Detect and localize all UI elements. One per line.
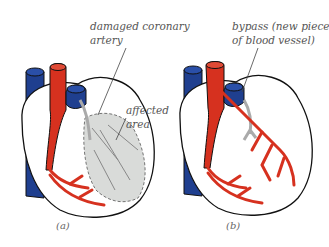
heart-diagram: damaged coronary artery affected area (a…: [0, 0, 329, 247]
label-affected-2: area: [126, 118, 150, 130]
caption-b: (b): [226, 220, 240, 231]
label-affected-1: affected: [126, 104, 169, 116]
caption-a: (a): [56, 220, 70, 231]
label-bypass-2: of blood vessel): [232, 34, 315, 46]
label-damaged-coronary-artery-2: artery: [90, 34, 124, 46]
heart-b: [180, 62, 312, 216]
heart-a: [22, 64, 154, 218]
label-bypass-1: bypass (new piece: [232, 20, 329, 32]
label-damaged-coronary-artery-1: damaged coronary: [90, 20, 191, 32]
